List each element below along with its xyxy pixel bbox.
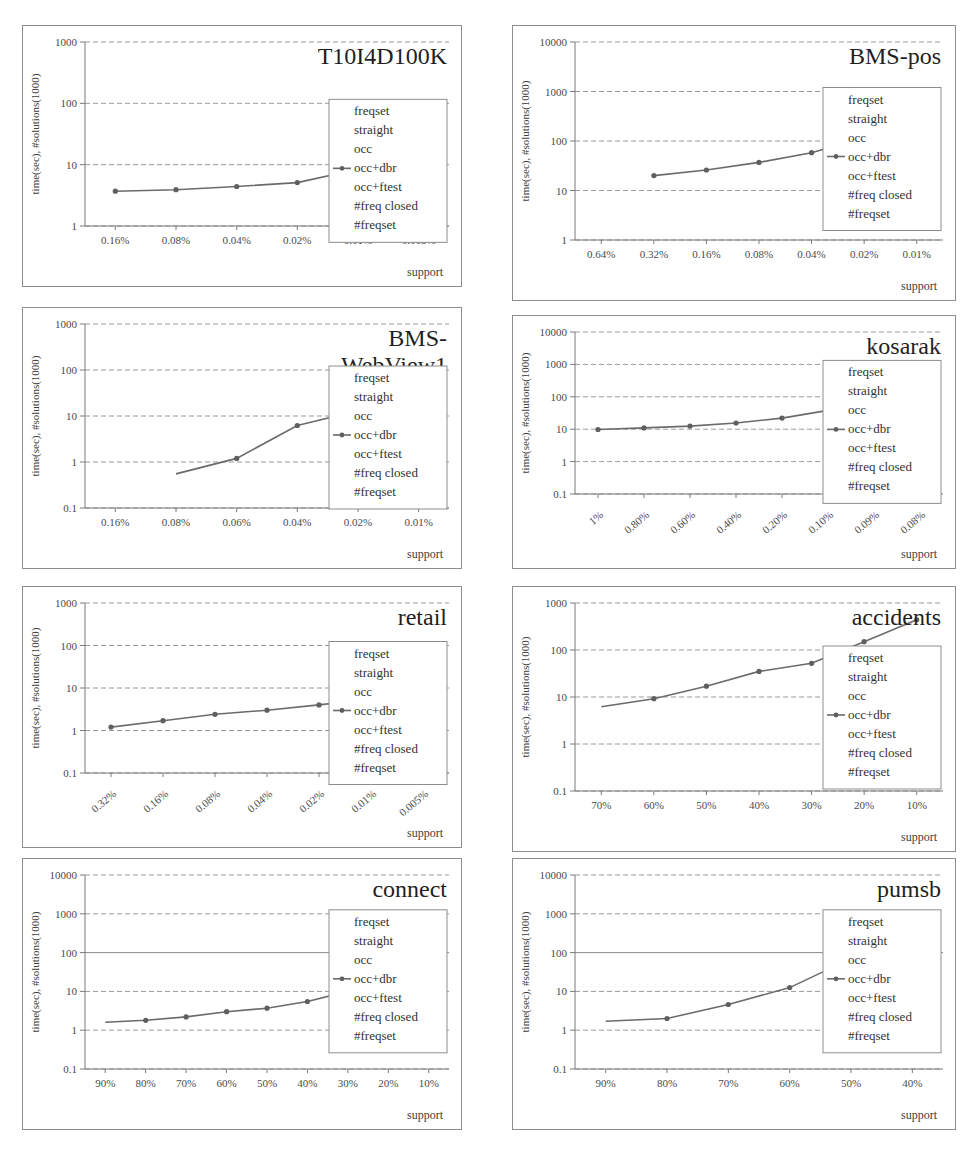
svg-text:connect: connect	[372, 876, 447, 902]
svg-text:0.1: 0.1	[553, 785, 567, 797]
x-axis-title: support	[901, 279, 938, 293]
x-axis-title: support	[407, 1108, 444, 1122]
chart-panel-pumsb: 0.111010010001000090%80%70%60%50%40%supp…	[512, 858, 956, 1130]
legend-label--freqset: #freqset	[848, 764, 890, 779]
chart-panel-kosarak: 0.11101001000100001%0.80%0.60%0.40%0.20%…	[512, 315, 956, 569]
svg-text:0.16%: 0.16%	[692, 248, 720, 260]
svg-text:60%: 60%	[644, 799, 664, 811]
svg-text:40%: 40%	[749, 799, 769, 811]
svg-text:10000: 10000	[50, 869, 78, 881]
legend-label-occ-dbr: occ+dbr	[848, 149, 891, 164]
x-axis-labels: 0.32%0.16%0.08%0.04%0.02%0.01%0.005%	[89, 787, 430, 818]
svg-text:90%: 90%	[596, 1077, 616, 1089]
svg-text:0.01%: 0.01%	[404, 516, 432, 528]
chart-panel-accidents: 0.1110100100070%60%50%40%30%20%10%suppor…	[512, 586, 956, 852]
svg-text:1: 1	[562, 1024, 568, 1036]
legend-label-freqset: freqset	[848, 364, 884, 379]
x-axis-title: support	[407, 826, 444, 840]
legend-label-freqset: freqset	[848, 650, 884, 665]
legend-label-occ-ftest: occ+ftest	[848, 726, 896, 741]
x-axis-labels: 90%80%70%60%50%40%	[596, 1077, 923, 1089]
legend-label--freq-closed: #freq closed	[848, 459, 912, 474]
svg-text:100: 100	[551, 391, 568, 403]
svg-text:0.32%: 0.32%	[640, 248, 668, 260]
legend-label-freqset: freqset	[848, 914, 884, 929]
x-axis-ticks	[606, 1069, 913, 1073]
x-axis-ticks	[601, 240, 916, 244]
svg-text:0.02%: 0.02%	[297, 787, 326, 814]
x-axis-title: support	[407, 547, 444, 561]
svg-text:0.08%: 0.08%	[162, 234, 190, 246]
chart-title: connect	[372, 876, 447, 902]
svg-text:0.02%: 0.02%	[283, 234, 311, 246]
svg-text:0.04%: 0.04%	[222, 234, 250, 246]
svg-text:0.10%: 0.10%	[806, 508, 835, 535]
legend-label-freqset: freqset	[354, 103, 390, 118]
legend-label--freqset: #freqset	[848, 478, 890, 493]
svg-text:70%: 70%	[176, 1077, 196, 1089]
legend-label--freqset: #freqset	[354, 217, 396, 232]
svg-text:10%: 10%	[907, 799, 927, 811]
legend-label-occ-ftest: occ+ftest	[848, 168, 896, 183]
svg-text:1%: 1%	[586, 508, 605, 527]
svg-text:0.16%: 0.16%	[101, 516, 129, 528]
svg-text:0.60%: 0.60%	[668, 508, 697, 535]
svg-text:1000: 1000	[545, 86, 568, 98]
x-axis-title: support	[901, 830, 938, 844]
svg-text:BMS-: BMS-	[388, 325, 447, 351]
legend-label-occ-dbr: occ+dbr	[354, 160, 397, 175]
legend-label-freqset: freqset	[354, 370, 390, 385]
svg-text:30%: 30%	[801, 799, 821, 811]
svg-text:0.04%: 0.04%	[283, 516, 311, 528]
legend-label--freq-closed: #freq closed	[354, 198, 418, 213]
svg-text:1: 1	[72, 220, 78, 232]
svg-text:1: 1	[562, 234, 568, 246]
y-axis-ticks: 110100100010000	[540, 36, 576, 246]
svg-text:20%: 20%	[854, 799, 874, 811]
svg-text:10: 10	[556, 691, 568, 703]
y-axis-ticks: 1101001000	[55, 36, 85, 232]
y-axis-ticks: 0.1110100100010000	[50, 869, 86, 1075]
legend-label-occ-dbr: occ+dbr	[848, 707, 891, 722]
chart-title: retail	[398, 604, 448, 630]
svg-text:10: 10	[66, 682, 78, 694]
legend-label-occ: occ	[354, 952, 372, 967]
legend-label-occ: occ	[848, 952, 866, 967]
svg-text:70%: 70%	[591, 799, 611, 811]
legend-label--freq-closed: #freq closed	[354, 741, 418, 756]
legend-label-occ-ftest: occ+ftest	[354, 722, 402, 737]
svg-text:50%: 50%	[257, 1077, 277, 1089]
chart-panel-bms-pos: 1101001000100000.64%0.32%0.16%0.08%0.04%…	[512, 25, 956, 301]
figure-panel-grid: 11010010000.16%0.08%0.04%0.02%0.01%0.005…	[0, 0, 978, 1156]
x-axis-title: support	[901, 547, 938, 561]
y-axis-title: time(sec), #solutions(1000)	[519, 352, 532, 473]
x-axis-labels: 70%60%50%40%30%20%10%	[591, 799, 927, 811]
svg-text:20%: 20%	[378, 1077, 398, 1089]
svg-text:80%: 80%	[136, 1077, 156, 1089]
y-axis-title: time(sec), #solutions(1000)	[519, 80, 532, 201]
legend-label-freqset: freqset	[354, 646, 390, 661]
svg-text:0.20%: 0.20%	[760, 508, 789, 535]
legend-label--freq-closed: #freq closed	[354, 1009, 418, 1024]
svg-text:0.005%: 0.005%	[397, 787, 431, 818]
x-axis-ticks	[601, 791, 916, 795]
chart-panel-t10i4d100k: 11010010000.16%0.08%0.04%0.02%0.01%0.005…	[22, 25, 462, 287]
legend-label-freqset: freqset	[848, 92, 884, 107]
svg-text:0.04%: 0.04%	[245, 787, 274, 814]
svg-text:100: 100	[61, 364, 78, 376]
svg-text:0.08%: 0.08%	[745, 248, 773, 260]
y-axis-ticks: 0.11101001000	[55, 318, 85, 514]
legend-label-straight: straight	[354, 389, 393, 404]
svg-text:50%: 50%	[841, 1077, 861, 1089]
svg-text:0.80%: 0.80%	[622, 508, 651, 535]
legend-label-occ-dbr: occ+dbr	[848, 421, 891, 436]
chart-panel-retail: 0.111010010000.32%0.16%0.08%0.04%0.02%0.…	[22, 586, 462, 848]
svg-text:0.32%: 0.32%	[89, 787, 118, 814]
svg-text:10: 10	[66, 159, 78, 171]
legend-label-straight: straight	[848, 111, 887, 126]
svg-text:60%: 60%	[780, 1077, 800, 1089]
legend-label-straight: straight	[354, 933, 393, 948]
x-axis-labels: 0.64%0.32%0.16%0.08%0.04%0.02%0.01%	[587, 248, 931, 260]
chart-title: accidents	[852, 604, 941, 630]
legend-label--freq-closed: #freq closed	[354, 465, 418, 480]
